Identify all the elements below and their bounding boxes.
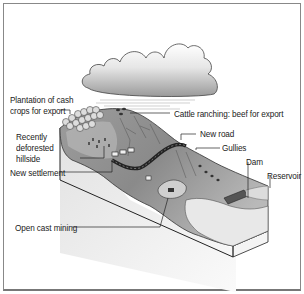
label-new-road: New road (200, 128, 234, 139)
label-new-road-line1: New road (200, 128, 234, 139)
label-dam: Dam (246, 156, 263, 167)
label-new-settlement: New settlement (10, 167, 65, 178)
label-mining-line1: Open cast mining (15, 222, 77, 233)
label-deforested-line3: hillside (16, 153, 54, 164)
label-new-settlement-line1: New settlement (10, 167, 65, 178)
label-reservoir-line1: Reservoir (267, 170, 301, 181)
label-reservoir: Reservoir (267, 170, 301, 181)
label-deforested-line2: deforested (16, 142, 54, 153)
label-deforested-hillside: Recently deforested hillside (16, 131, 54, 164)
label-plantation-line1: Plantation of cash (10, 94, 73, 105)
label-dam-line1: Dam (246, 156, 263, 167)
label-cattle-ranching: Cattle ranching: beef for export (174, 108, 283, 119)
label-cattle-line1: Cattle ranching: beef for export (174, 108, 283, 119)
label-open-cast-mining: Open cast mining (15, 222, 77, 233)
label-gullies: Gullies (222, 142, 246, 153)
cloud-icon (82, 44, 217, 109)
label-deforested-line1: Recently (16, 131, 54, 142)
label-gullies-line1: Gullies (222, 142, 246, 153)
label-plantation: Plantation of cash crops for export (10, 94, 73, 116)
label-plantation-line2: crops for export (10, 105, 73, 116)
